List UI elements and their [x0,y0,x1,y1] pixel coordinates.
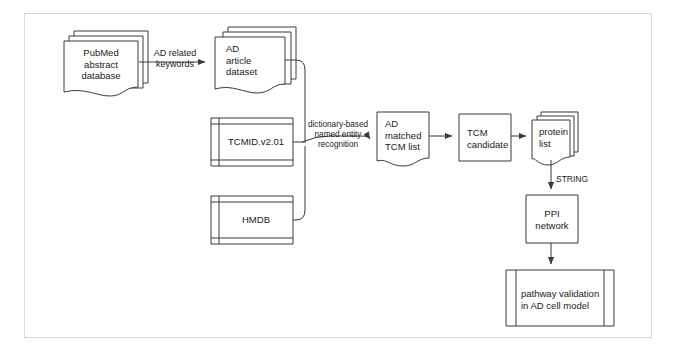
edge-label-dictionary-ner: dictionary-based named entity recognitio… [305,120,371,150]
node-label-hmdb: HMDB [219,214,293,226]
diagram-canvas: PubMed abstract database AD article data… [0,0,675,356]
edge-label-string: STRING [556,174,598,184]
node-label-ad-article: AD article dataset [226,43,290,78]
node-label-tcmid: TCMID.v2.01 [219,136,293,148]
edge-hmdb-to-merge [293,146,305,220]
node-label-protein: protein list [539,126,579,149]
node-label-tcm-candidate: TCM candidate [467,127,515,150]
node-label-pathway: pathway validation in AD cell model [521,288,609,311]
edge-label-ad-related-keywords: AD related keywords [145,48,205,70]
node-label-ad-tcm: AD matched TCM list [385,118,433,153]
node-label-ppi: PPI network [526,208,578,231]
node-label-pubmed: PubMed abstract database [64,47,138,82]
